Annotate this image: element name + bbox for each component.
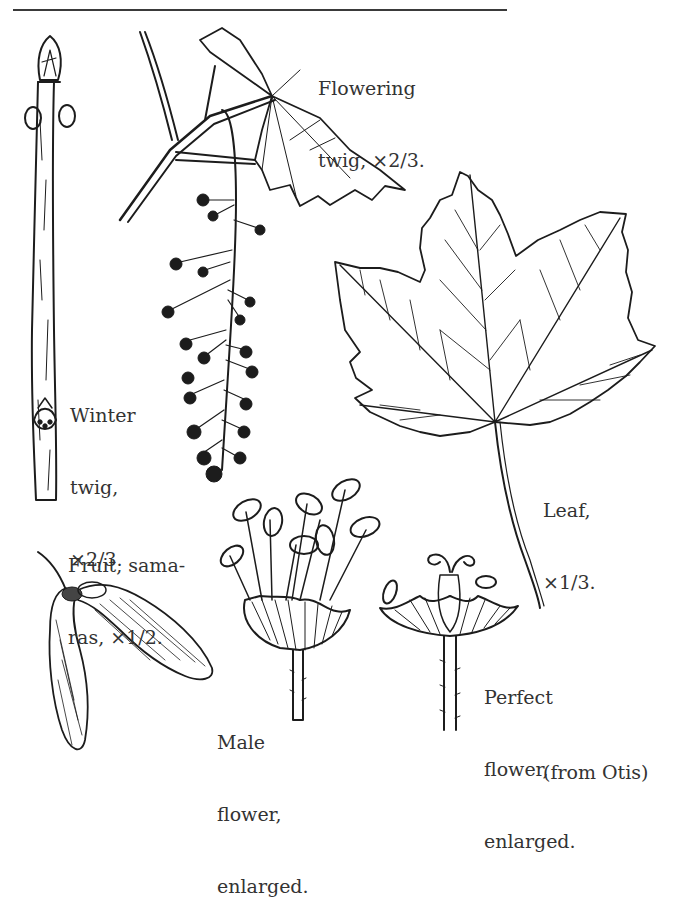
winter-twig-illustration bbox=[25, 36, 75, 500]
label-perfect-flower-line3: enlarged. bbox=[484, 829, 576, 853]
label-male-flower-line2: flower, bbox=[217, 802, 309, 826]
label-fruit-line1: Fruit, sama- bbox=[68, 553, 185, 577]
label-male-flower: Male flower, enlarged. bbox=[217, 682, 309, 901]
label-winter-twig-line1: Winter bbox=[70, 403, 135, 427]
label-flowering-twig: Flowering twig, ×2/3. bbox=[318, 28, 425, 196]
label-fruit: Fruit, sama- ras, ×1/2. bbox=[68, 505, 185, 673]
label-leaf-line1: Leaf, bbox=[543, 498, 596, 522]
label-fruit-line2: ras, ×1/2. bbox=[68, 625, 185, 649]
label-leaf: Leaf, ×1/3. bbox=[543, 450, 596, 618]
label-flowering-twig-line1: Flowering bbox=[318, 76, 425, 100]
credit-text: (from Otis) bbox=[543, 760, 648, 784]
label-male-flower-line1: Male bbox=[217, 730, 309, 754]
leaf-illustration bbox=[335, 172, 655, 608]
raceme-flowers bbox=[162, 194, 265, 482]
label-winter-twig-line2: twig, bbox=[70, 475, 135, 499]
label-flowering-twig-line2: twig, ×2/3. bbox=[318, 148, 425, 172]
label-perfect-flower: Perfect flower, enlarged. bbox=[484, 637, 576, 877]
label-perfect-flower-line1: Perfect bbox=[484, 685, 576, 709]
label-leaf-line2: ×1/3. bbox=[543, 570, 596, 594]
label-male-flower-line3: enlarged. bbox=[217, 874, 309, 898]
